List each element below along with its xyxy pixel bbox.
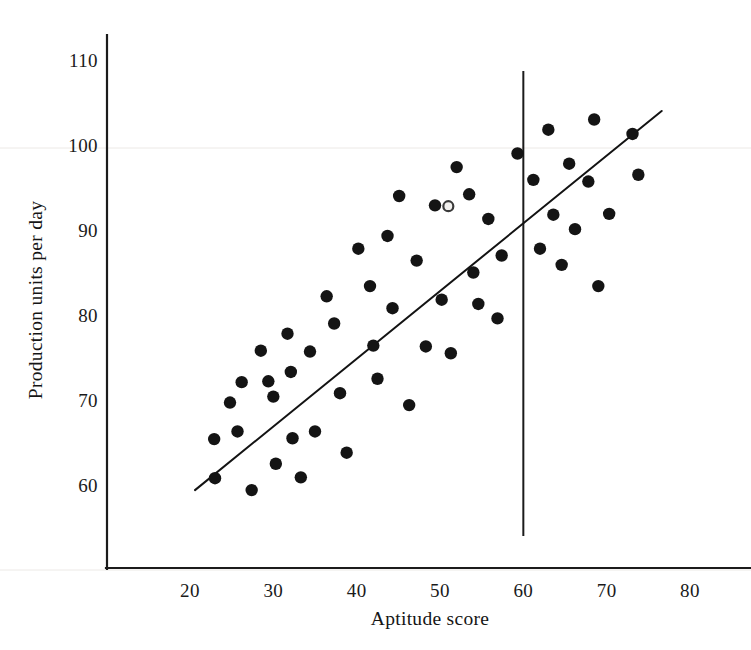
scatter-point <box>582 175 594 187</box>
scatter-point <box>381 230 393 242</box>
y-axis: 60708090100110 Production units per day <box>25 35 107 569</box>
scatter-point <box>320 290 332 302</box>
scatter-point <box>445 347 457 359</box>
scatter-point <box>429 199 441 211</box>
scatter-point <box>209 472 221 484</box>
scatter-point <box>334 387 346 399</box>
scatter-point <box>626 128 638 140</box>
x-tick-label: 30 <box>263 580 283 601</box>
scatter-point-open <box>443 201 453 211</box>
scatter-point <box>255 345 267 357</box>
x-tick-label: 50 <box>430 580 450 601</box>
x-axis-title: Aptitude score <box>371 608 489 629</box>
scatter-point <box>511 147 523 159</box>
scatter-point <box>527 174 539 186</box>
y-tick-label: 110 <box>69 50 98 71</box>
scatter-point <box>569 223 581 235</box>
scatter-point <box>267 390 279 402</box>
scatter-point <box>285 366 297 378</box>
y-tick-label: 60 <box>78 475 98 496</box>
scatter-point <box>472 298 484 310</box>
scatter-points <box>208 113 645 496</box>
scatter-point <box>245 484 257 496</box>
scatter-point <box>270 458 282 470</box>
scatter-point <box>340 447 352 459</box>
plot-canvas: 60708090100110 Production units per day … <box>0 0 751 650</box>
scatter-point <box>262 375 274 387</box>
x-tick-label: 80 <box>680 580 700 601</box>
x-tick-label: 20 <box>180 580 200 601</box>
scatter-point <box>534 243 546 255</box>
scatter-point <box>588 113 600 125</box>
scatter-point <box>563 158 575 170</box>
y-tick-labels: 60708090100110 <box>68 50 98 496</box>
scatter-point <box>495 249 507 261</box>
scatter-point <box>592 280 604 292</box>
x-tick-label: 70 <box>597 580 617 601</box>
x-tick-label: 40 <box>347 580 367 601</box>
scatter-point <box>231 425 243 437</box>
scatter-point <box>547 209 559 221</box>
scatter-point <box>309 425 321 437</box>
scatter-point <box>386 302 398 314</box>
scatter-point <box>603 208 615 220</box>
scatter-point <box>281 328 293 340</box>
scatter-point <box>393 190 405 202</box>
scatter-point <box>304 345 316 357</box>
scatter-point <box>364 280 376 292</box>
scatter-point <box>491 312 503 324</box>
scatter-point <box>632 169 644 181</box>
scatter-point <box>371 373 383 385</box>
x-axis: 20304050607080 Aptitude score <box>106 568 751 629</box>
scatter-point <box>542 124 554 136</box>
scatter-point <box>450 161 462 173</box>
y-tick-label: 90 <box>78 220 98 241</box>
x-tick-label: 60 <box>513 580 533 601</box>
y-axis-title: Production units per day <box>25 201 46 399</box>
scatter-point <box>435 294 447 306</box>
scatter-point <box>420 340 432 352</box>
y-tick-label: 80 <box>78 305 98 326</box>
scatter-point <box>352 243 364 255</box>
scatter-chart-figure: 60708090100110 Production units per day … <box>0 0 751 650</box>
scatter-point <box>224 396 236 408</box>
scatter-point <box>555 259 567 271</box>
scatter-point <box>328 317 340 329</box>
fitted-regression-line <box>195 111 662 490</box>
x-tick-labels: 20304050607080 <box>180 580 700 601</box>
scatter-point <box>463 188 475 200</box>
scatter-point <box>403 399 415 411</box>
scatter-point <box>410 254 422 266</box>
scatter-point <box>482 213 494 225</box>
scatter-point <box>235 376 247 388</box>
y-tick-label: 100 <box>68 135 98 156</box>
scatter-point <box>295 471 307 483</box>
scatter-point <box>286 432 298 444</box>
scatter-point <box>367 339 379 351</box>
y-tick-label: 70 <box>78 390 98 411</box>
scatter-point <box>467 266 479 278</box>
scatter-point <box>208 433 220 445</box>
